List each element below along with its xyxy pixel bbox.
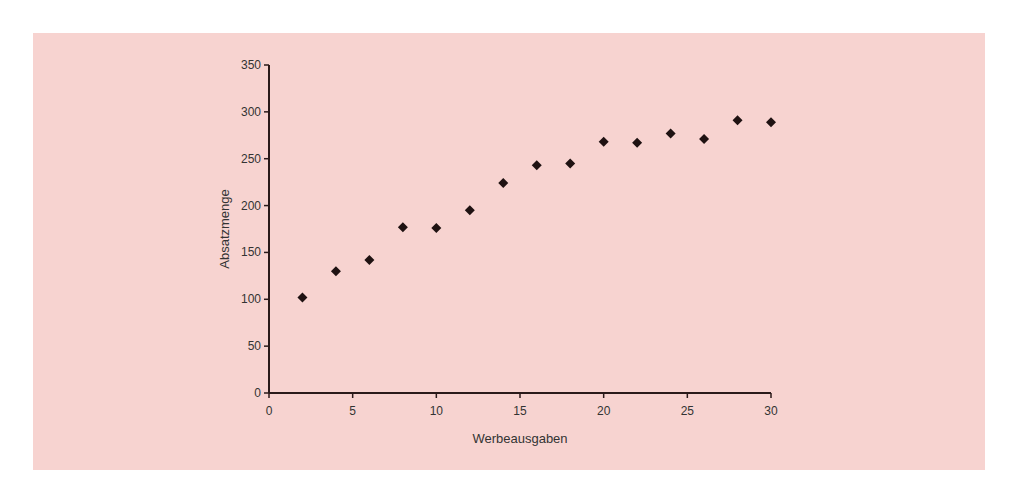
y-tick-label: 200	[241, 199, 261, 213]
x-tick-label: 30	[764, 404, 778, 418]
x-axis-title: Werbeausgaben	[472, 431, 567, 446]
diamond-marker	[364, 255, 374, 265]
x-tick-label: 10	[430, 404, 444, 418]
diamond-marker	[331, 266, 341, 276]
y-tick-label: 350	[241, 58, 261, 72]
diamond-marker	[632, 138, 642, 148]
diamond-marker	[398, 222, 408, 232]
diamond-marker	[431, 223, 441, 233]
y-tick-label: 250	[241, 152, 261, 166]
scatter-chart: 050100150200250300350 051015202530 Werbe…	[0, 0, 1011, 501]
diamond-marker	[699, 134, 709, 144]
diamond-marker	[666, 128, 676, 138]
y-tick-label: 50	[248, 339, 262, 353]
diamond-marker	[465, 205, 475, 215]
x-tick-label: 15	[513, 404, 527, 418]
y-tick-label: 300	[241, 105, 261, 119]
diamond-marker	[766, 117, 776, 127]
data-points	[297, 115, 776, 302]
x-tick-label: 5	[349, 404, 356, 418]
diamond-marker	[565, 158, 575, 168]
diamond-marker	[733, 115, 743, 125]
diamond-marker	[297, 292, 307, 302]
x-tick-label: 25	[681, 404, 695, 418]
y-tick-label: 0	[254, 386, 261, 400]
y-axis-title: Absatzmenge	[217, 189, 232, 269]
y-tick-label: 150	[241, 245, 261, 259]
diamond-marker	[532, 160, 542, 170]
y-axis: 050100150200250300350	[241, 58, 269, 400]
diamond-marker	[599, 137, 609, 147]
x-axis: 051015202530	[266, 393, 778, 418]
y-tick-label: 100	[241, 292, 261, 306]
diamond-marker	[498, 178, 508, 188]
x-tick-label: 20	[597, 404, 611, 418]
x-tick-label: 0	[266, 404, 273, 418]
